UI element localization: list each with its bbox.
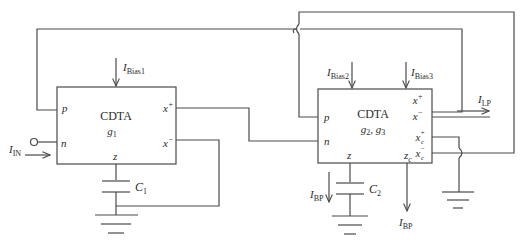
cdta1-name: CDTA (100, 109, 132, 123)
bandpass-label-1: IBP (309, 188, 324, 203)
cdta2-name: CDTA (357, 107, 389, 121)
capacitor-c2-label: C2 (369, 182, 381, 198)
cdta-filter-diagram: CDTA g1 p n z x+ x− IBias1 IIN C1 CDTA g… (0, 0, 524, 246)
bias2-label: IBias2 (326, 66, 349, 81)
capacitor-c1-label: C1 (135, 180, 147, 196)
bias1-label: IBias1 (122, 61, 145, 76)
cdta2-port-z: z (346, 149, 352, 161)
ground-icon (95, 215, 138, 233)
ground-icon (442, 192, 474, 208)
cdta-block-2: CDTA g2, g3 p n z zc x+ x− x+c x−c (318, 89, 432, 164)
cdta2-port-n: n (324, 135, 330, 147)
ground-icon (332, 216, 368, 234)
cdta-block-1: CDTA g1 p n z x+ x− (57, 87, 176, 164)
cdta1-port-z: z (112, 150, 118, 162)
lowpass-output-label: ILP (477, 93, 492, 108)
cdta1-port-n: n (61, 137, 67, 149)
bandpass-label-2: IBP (398, 216, 413, 231)
cdta1-port-p: p (61, 102, 68, 114)
input-terminal (31, 139, 38, 146)
cdta2-port-p: p (323, 111, 330, 123)
input-label: IIN (8, 143, 21, 158)
bias3-label: IBias3 (410, 66, 433, 81)
